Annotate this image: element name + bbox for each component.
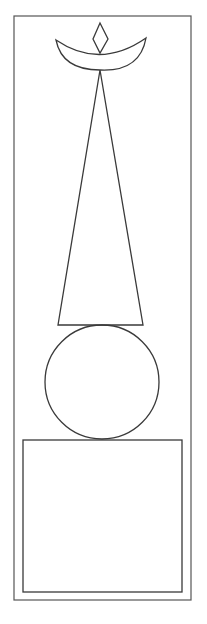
circle: [45, 325, 159, 439]
diamond: [93, 23, 108, 53]
geometric-figure: [0, 0, 207, 624]
square: [23, 440, 182, 592]
crescent: [56, 38, 146, 70]
outer-frame: [14, 16, 191, 600]
tall-triangle: [58, 70, 143, 325]
